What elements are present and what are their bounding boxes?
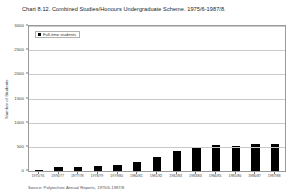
x-tick-label: 1980/81 [130, 174, 143, 178]
x-tick-label: 1983/84 [189, 174, 202, 178]
y-tick-label: 500 [17, 143, 24, 148]
x-tick-label: 1976/77 [51, 174, 64, 178]
bar [94, 166, 102, 171]
bar [271, 144, 279, 171]
chart-legend: Full-time students [35, 31, 80, 38]
bar [212, 145, 220, 171]
x-tick-label: 1987/88 [268, 174, 281, 178]
bar [173, 151, 181, 171]
source-note: Source: Polytechnic Annual Reports, 1975… [28, 185, 125, 190]
y-tick-label: 1000 [14, 119, 24, 124]
bar [251, 144, 259, 171]
y-tick-label: 1500 [14, 95, 24, 100]
x-tick-label: 1981/82 [150, 174, 163, 178]
plot-area [28, 25, 286, 172]
x-axis: 1975/761976/771977/781978/791979/801980/… [28, 172, 286, 184]
x-tick-label: 1979/80 [110, 174, 123, 178]
x-tick-label: 1975/76 [32, 174, 45, 178]
legend-label-full-time-students: Full-time students [43, 32, 76, 37]
legend-swatch-full-time-students [38, 33, 41, 36]
gridline [29, 50, 285, 51]
gridline [29, 147, 285, 148]
bar [153, 157, 161, 172]
y-axis: Number of Students 050010001500200025003… [0, 25, 28, 172]
bar [74, 167, 82, 171]
bar [133, 162, 141, 171]
x-tick-label: 1978/79 [91, 174, 104, 178]
bar [113, 165, 121, 171]
x-tick-label: 1986/87 [248, 174, 261, 178]
x-tick-label: 1982/83 [169, 174, 182, 178]
gridline [29, 74, 285, 75]
y-tick-label: 2000 [14, 71, 24, 76]
chart-figure: Chart 8.12. Combined Studies/Honours Und… [0, 0, 294, 196]
y-axis-title: Number of Students [4, 79, 9, 118]
y-tick-label: 3000 [14, 23, 24, 28]
x-tick-label: 1977/78 [71, 174, 84, 178]
gridline [29, 99, 285, 100]
bar [192, 147, 200, 171]
bar [232, 146, 240, 171]
y-tick-label: 0 [22, 168, 24, 173]
gridline [29, 26, 285, 27]
gridline [29, 123, 285, 124]
x-tick-label: 1984/85 [209, 174, 222, 178]
y-tick-label: 2500 [14, 47, 24, 52]
bar [54, 167, 62, 171]
x-tick-label: 1985/86 [228, 174, 241, 178]
chart-title: Chart 8.12. Combined Studies/Honours Und… [22, 5, 226, 13]
bar [35, 170, 43, 171]
